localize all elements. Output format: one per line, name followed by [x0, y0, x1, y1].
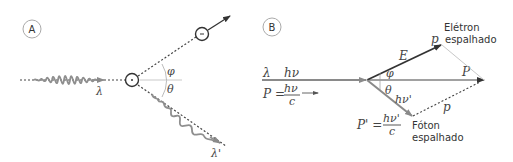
angle-arc	[162, 64, 167, 97]
dashed-momentum-label: p	[443, 100, 451, 114]
incident-momentum-numerator: hν	[284, 82, 298, 95]
scattered-momentum-numerator: hν'	[383, 112, 400, 125]
total-momentum-label: P	[461, 65, 471, 79]
scattered-momentum-denominator: c	[389, 125, 395, 138]
incident-momentum-lhs: P =	[262, 87, 285, 101]
incident-momentum-denominator: c	[289, 95, 295, 108]
target-electron-icon	[126, 74, 139, 87]
panel-b: B λ hν P = hν c P E p Elétron espalhado …	[262, 18, 497, 143]
panel-a-badge: A	[23, 20, 41, 38]
photon-title-line2: espalhado	[412, 132, 464, 143]
compton-scattering-diagram: A λ φ θ λ' B	[0, 0, 513, 162]
angle-theta-label-b: θ	[385, 84, 392, 97]
electron-title-line2: espalhado	[445, 34, 497, 45]
panel-a-label: A	[29, 24, 36, 35]
panel-b-badge: B	[263, 18, 281, 36]
incident-wavelength-label: λ	[95, 85, 103, 98]
electron-title-line1: Elétron	[444, 22, 480, 33]
scattered-momentum-formula: P' = hν' c	[356, 112, 401, 138]
panel-b-label: B	[269, 22, 276, 33]
angle-phi-label: φ	[167, 65, 175, 78]
scattered-electron-icon	[196, 28, 209, 41]
scattered-photon-energy-label: hν'	[395, 93, 412, 106]
electron-direction-arrow	[208, 16, 230, 30]
scattered-wavelength-label: λ'	[210, 147, 221, 160]
scattered-momentum-lhs: P' =	[356, 118, 382, 132]
angle-phi-label-b: φ	[386, 67, 394, 80]
photon-title-line1: Fóton	[412, 120, 440, 131]
incident-photon-wave-icon	[34, 76, 100, 84]
panel-a: A λ φ θ λ'	[20, 16, 230, 160]
scattered-photon-wave-icon	[152, 94, 214, 141]
incident-energy-label: hν	[284, 66, 299, 80]
electron-momentum-label: p	[431, 32, 439, 46]
electron-energy-label: E	[398, 49, 408, 63]
incident-momentum-formula: P = hν c	[262, 82, 318, 108]
incident-wavelength-label-b: λ	[262, 66, 271, 80]
angle-theta-label: θ	[167, 83, 174, 96]
